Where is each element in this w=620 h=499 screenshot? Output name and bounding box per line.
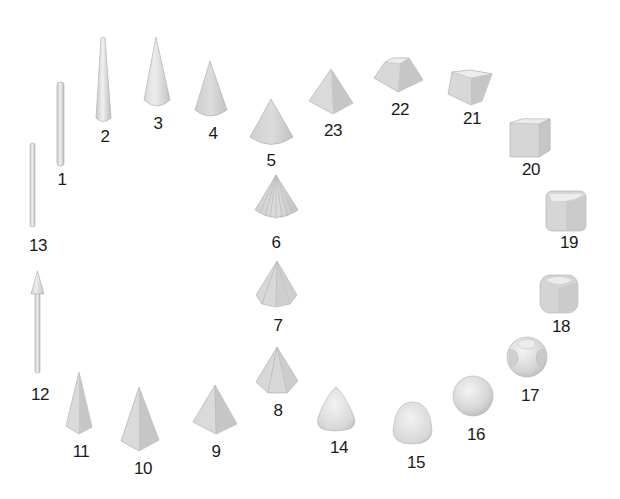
label-10: 10 — [134, 459, 152, 479]
label-5: 5 — [267, 151, 276, 171]
shape-6-fluted-cone — [255, 175, 298, 219]
label-11: 11 — [73, 442, 90, 462]
shape-15-rounded-cone — [393, 402, 432, 444]
label-13: 13 — [29, 236, 47, 256]
shape-22-tall-frustum — [374, 58, 423, 92]
shape-13-thin-rod — [30, 143, 35, 227]
label-7: 7 — [274, 316, 283, 336]
label-15: 15 — [407, 453, 425, 473]
shape-8-hexagonal-pyramid — [256, 347, 298, 393]
label-21: 21 — [463, 109, 481, 129]
shape-16-sphere — [453, 376, 493, 416]
shape-14-rounded-pyramid — [318, 387, 355, 431]
label-17: 17 — [521, 386, 539, 406]
shape-1-thin-rod — [57, 82, 64, 166]
shape-sequence-diagram: 1 2 3 4 5 6 7 8 9 10 11 12 13 14 15 16 1… — [0, 0, 620, 499]
shape-10-tall-square-pyramid — [121, 387, 159, 451]
label-22: 22 — [391, 100, 409, 120]
shape-17-spherical-cube — [507, 337, 547, 377]
shape-5-wide-cone — [250, 99, 293, 145]
shape-12-arrow-rod — [31, 271, 44, 373]
label-1: 1 — [58, 170, 67, 190]
label-12: 12 — [31, 385, 49, 405]
label-19: 19 — [560, 233, 578, 253]
label-4: 4 — [209, 124, 218, 144]
label-16: 16 — [467, 425, 485, 445]
label-9: 9 — [212, 442, 221, 462]
shape-3-narrow-cone — [144, 37, 170, 106]
shape-18-rounded-cube — [540, 275, 578, 313]
shape-20-cube — [510, 119, 550, 157]
label-8: 8 — [274, 401, 283, 421]
shape-7-octagonal-pyramid — [256, 261, 297, 307]
label-14: 14 — [330, 438, 348, 458]
shape-2-tapered-rod — [96, 37, 111, 122]
label-3: 3 — [154, 114, 163, 134]
label-6: 6 — [272, 233, 281, 253]
label-18: 18 — [552, 317, 570, 337]
shape-23-square-pyramid — [309, 69, 353, 114]
label-2: 2 — [101, 127, 110, 147]
shape-11-narrow-pyramid — [66, 372, 92, 434]
label-23: 23 — [324, 121, 342, 141]
shape-19-soft-cube — [546, 191, 586, 231]
label-20: 20 — [522, 160, 540, 180]
shape-4-cone — [195, 61, 227, 116]
shape-21-frustum — [448, 70, 492, 105]
shape-9-square-pyramid — [193, 385, 237, 434]
